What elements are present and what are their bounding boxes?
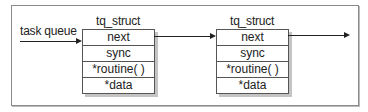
task-queue-label: task queue xyxy=(20,24,77,38)
struct-title: tq_struct xyxy=(96,14,140,28)
tq-struct-box-1: next sync *routine( ) *data xyxy=(82,29,155,94)
arrowhead-icon xyxy=(344,32,350,38)
next-pointer-line-1 xyxy=(154,36,210,37)
field-next: next xyxy=(83,30,154,45)
tq-struct-box-2: next sync *routine( ) *data xyxy=(216,29,289,94)
field-data: *data xyxy=(217,77,288,93)
next-pointer-line-2 xyxy=(288,35,344,36)
field-sync: sync xyxy=(217,45,288,61)
field-sync: sync xyxy=(83,45,154,61)
field-next: next xyxy=(217,30,288,45)
queue-head-arrow-line xyxy=(20,41,76,42)
field-routine: *routine( ) xyxy=(217,61,288,77)
struct-title: tq_struct xyxy=(230,14,274,28)
field-data: *data xyxy=(83,77,154,93)
diagram-frame xyxy=(11,5,359,106)
field-routine: *routine( ) xyxy=(83,61,154,77)
